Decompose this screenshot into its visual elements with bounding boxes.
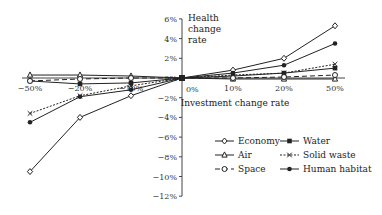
dot-marker-icon — [231, 71, 236, 76]
legend-label: Space — [238, 164, 266, 174]
legend-item: Water — [280, 136, 331, 146]
x-tick-label: 0% — [186, 85, 199, 94]
legend-label: Solid waste — [303, 150, 356, 160]
circle-marker-icon — [78, 76, 83, 81]
y-tick-label: −12% — [153, 192, 178, 201]
legend-label: Water — [303, 136, 331, 146]
circle-marker-icon — [231, 76, 236, 81]
x-axis-title: Investment change rate — [181, 98, 290, 108]
dot-marker-icon — [282, 63, 287, 68]
x-tick-label: 20% — [275, 84, 293, 93]
square-marker-icon — [287, 139, 292, 144]
circle-marker-icon — [333, 73, 338, 78]
diamond-marker-icon — [281, 55, 286, 61]
square-marker-icon — [333, 66, 338, 71]
legend-item: Solid waste — [280, 150, 356, 160]
x-tick-label: 10% — [224, 84, 242, 93]
y-axis-title-line: change — [188, 24, 221, 34]
square-marker-icon — [78, 82, 83, 87]
legend: EconomyWaterAirSolid wasteSpaceHuman hab… — [215, 136, 372, 174]
y-tick-label: −10% — [153, 173, 178, 182]
y-tick-label: −2% — [158, 94, 178, 103]
x-tick-label: 50% — [326, 84, 344, 93]
dot-marker-icon — [129, 88, 134, 93]
legend-item: Space — [215, 164, 266, 174]
legend-item: Air — [215, 150, 252, 160]
y-tick-label: 6% — [164, 15, 177, 24]
diamond-marker-icon — [332, 23, 337, 29]
x-marker-icon — [28, 111, 33, 116]
axes: 6%4%2%0%−2%−4%−6%−8%−10%−12%−50%−20%−10%… — [18, 15, 345, 201]
line-chart: 6%4%2%0%−2%−4%−6%−8%−10%−12%−50%−20%−10%… — [0, 0, 382, 215]
y-tick-label: −6% — [158, 133, 178, 142]
triangle-marker-icon — [27, 72, 32, 77]
y-axis-title: Healthchangerate — [188, 13, 221, 45]
circle-marker-icon — [28, 78, 33, 83]
legend-item: Human habitat — [280, 164, 372, 174]
circle-marker-icon — [129, 76, 134, 81]
legend-item: Economy — [215, 136, 281, 146]
y-tick-label: 4% — [164, 35, 177, 44]
legend-label: Human habitat — [303, 164, 372, 174]
dot-marker-icon — [78, 94, 83, 99]
y-tick-label: 2% — [164, 54, 177, 63]
y-tick-label: −8% — [158, 153, 178, 162]
y-tick-label: −4% — [158, 113, 178, 122]
diamond-marker-icon — [222, 138, 227, 144]
x-tick-label: −50% — [18, 84, 43, 93]
origin-marker-icon — [179, 75, 185, 81]
legend-label: Economy — [238, 136, 281, 146]
diamond-marker-icon — [128, 93, 133, 99]
circle-marker-icon — [282, 75, 287, 80]
dot-marker-icon — [28, 120, 33, 125]
legend-label: Air — [237, 150, 252, 160]
y-axis-title-line: Health — [188, 13, 219, 23]
triangle-marker-icon — [222, 152, 227, 157]
dot-marker-icon — [287, 167, 292, 172]
y-axis-title-line: rate — [188, 35, 207, 45]
circle-marker-icon — [222, 167, 227, 172]
dot-marker-icon — [333, 41, 338, 46]
